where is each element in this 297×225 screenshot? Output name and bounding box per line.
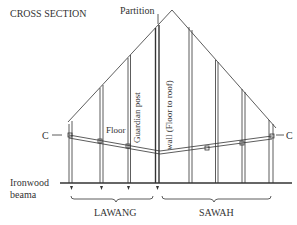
c-right-label: C — [286, 130, 293, 141]
wall-label: wall (Floor to roof) — [164, 80, 174, 150]
sawah-brace — [162, 196, 271, 202]
guardian-post-label: Guardian post — [132, 92, 142, 143]
floor-label: Floor — [106, 125, 126, 135]
diagram-title: CROSS SECTION — [10, 8, 86, 19]
ironwood-label-line1: Ironwood — [10, 177, 49, 188]
c-left-label: C — [42, 130, 49, 141]
cross-section-diagram: CROSS SECTION Partition C C Floor Guardi… — [0, 0, 297, 225]
lawang-brace — [71, 196, 153, 202]
sawah-label: SAWAH — [199, 207, 234, 218]
beam-arrows — [70, 186, 159, 190]
lawang-label: LAWANG — [94, 207, 137, 218]
ironwood-label-line2: beama — [10, 189, 37, 200]
partition-label: Partition — [120, 5, 154, 16]
